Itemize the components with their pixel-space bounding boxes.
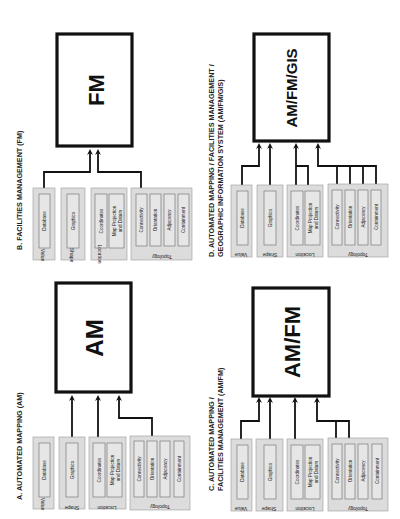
group-location: Coordinates Map Projection and Datum Loc… [89, 437, 126, 511]
amfmgis-system-label: AM/FM/GIS [283, 48, 300, 127]
svg-text:and Datum: and Datum [118, 210, 123, 233]
svg-text:Coordinates: Coordinates [295, 205, 300, 230]
svg-text:Orientation: Orientation [150, 457, 155, 480]
panel-a: A. AUTOMATED MAPPING (AM) AM Database Va… [15, 283, 190, 511]
svg-text:Topology: Topology [347, 252, 368, 258]
svg-text:Shape: Shape [262, 506, 277, 512]
svg-text:Connectivity: Connectivity [137, 456, 142, 482]
group-shape: Graphics Shape [257, 185, 283, 258]
group-location: Coordinates Map Projection and Datum Loc… [287, 439, 323, 512]
panel-b-title: B. FACILITIES MANAGEMENT (FM) [15, 130, 24, 250]
svg-text:Location: Location [97, 245, 103, 264]
panel-d-title-line2: GEOGRAPHIC INFORMATION SYSTEM (AM/FM/GIS… [216, 79, 225, 257]
fm-system-label: FM [84, 74, 109, 106]
svg-text:Database: Database [240, 208, 245, 228]
group-location: Coordinates Map Projection and Datum Loc… [91, 188, 127, 264]
svg-text:Coordinates: Coordinates [97, 457, 102, 482]
svg-text:Shape: Shape [263, 252, 278, 258]
svg-text:Adjacency: Adjacency [361, 206, 366, 228]
svg-text:and Datum: and Datum [116, 459, 121, 482]
svg-text:Connectivity: Connectivity [335, 458, 340, 484]
group-value: Database Value [231, 439, 252, 512]
group-shape: Graphics Shape [61, 188, 85, 262]
svg-text:Containment: Containment [374, 203, 379, 230]
svg-text:Database: Database [42, 211, 47, 231]
group-topology: Connectivity Orientation Adjacency Conta… [328, 438, 388, 512]
svg-text:Graphics: Graphics [70, 460, 75, 479]
panel-c-title-line2: FACILITIES MANAGEMENT (AM/FM) [216, 367, 225, 491]
svg-text:Connectivity: Connectivity [335, 204, 340, 230]
svg-text:Adjacency: Adjacency [361, 460, 366, 482]
svg-text:Map Projection: Map Projection [110, 454, 115, 485]
amfm-system-label: AM/FM [280, 306, 305, 378]
panel-d-title-line1: D. AUTOMATED MAPPING / FACILITIES MANAGE… [207, 64, 216, 257]
svg-text:Containment: Containment [177, 455, 182, 482]
svg-text:Orientation: Orientation [348, 459, 353, 482]
group-value: Database Value [231, 185, 252, 258]
group-value: Database Value [33, 188, 55, 261]
group-shape: Graphics Shape [59, 437, 85, 511]
svg-text:and Datum: and Datum [314, 207, 319, 230]
svg-text:Location: Location [295, 506, 314, 512]
svg-text:Value: Value [40, 249, 46, 262]
svg-text:Adjacency: Adjacency [167, 209, 172, 231]
svg-text:Connectivity: Connectivity [139, 207, 144, 233]
am-system-label: AM [81, 319, 108, 356]
group-topology: Connectivity Orientation Adjacency Conta… [328, 184, 388, 258]
svg-text:Topology: Topology [347, 506, 368, 512]
group-value: Database Value [33, 437, 54, 510]
svg-text:Value: Value [235, 252, 248, 258]
svg-text:Value: Value [235, 506, 248, 512]
svg-text:Map Projection: Map Projection [308, 202, 313, 233]
panel-d: D. AUTOMATED MAPPING / FACILITIES MANAGE… [207, 34, 388, 258]
svg-text:Coordinates: Coordinates [295, 459, 300, 484]
svg-text:Location: Location [295, 252, 314, 258]
panel-c-title-line1: C. AUTOMATED MAPPING / [207, 397, 216, 491]
svg-text:Database: Database [42, 460, 47, 480]
group-topology: Connectivity Orientation Adjacency Conta… [131, 188, 192, 260]
svg-text:Shape: Shape [65, 505, 80, 511]
svg-text:Map Projection: Map Projection [112, 205, 117, 236]
svg-text:Orientation: Orientation [153, 208, 158, 231]
svg-text:Containment: Containment [375, 457, 380, 484]
svg-text:Value: Value [40, 498, 46, 511]
svg-text:Graphics: Graphics [268, 208, 273, 227]
panel-b: B. FACILITIES MANAGEMENT (FM) FM Databas… [15, 34, 192, 264]
svg-text:Topology: Topology [151, 254, 172, 260]
svg-text:Containment: Containment [181, 206, 186, 233]
group-location: Coordinates Map Projection and Datum Loc… [287, 185, 323, 258]
group-shape: Graphics Shape [256, 439, 283, 512]
svg-text:Graphics: Graphics [71, 211, 76, 230]
panel-a-title: A. AUTOMATED MAPPING (AM) [15, 392, 24, 500]
group-topology: Connectivity Orientation Adjacency Conta… [130, 436, 190, 510]
svg-text:Graphics: Graphics [268, 462, 273, 481]
panel-c: C. AUTOMATED MAPPING / FACILITIES MANAGE… [207, 288, 388, 512]
svg-text:Orientation: Orientation [348, 205, 353, 228]
svg-text:and Datum: and Datum [314, 461, 319, 484]
svg-text:Database: Database [240, 462, 245, 482]
svg-text:Topology: Topology [149, 504, 170, 510]
svg-text:Coordinates: Coordinates [99, 208, 104, 233]
svg-text:Location: Location [97, 505, 116, 511]
svg-text:Shape: Shape [69, 248, 75, 263]
svg-text:Adjacency: Adjacency [163, 458, 168, 480]
diagram-canvas: B. FACILITIES MANAGEMENT (FM) FM Databas… [0, 0, 400, 519]
svg-text:Map Projection: Map Projection [308, 456, 313, 487]
